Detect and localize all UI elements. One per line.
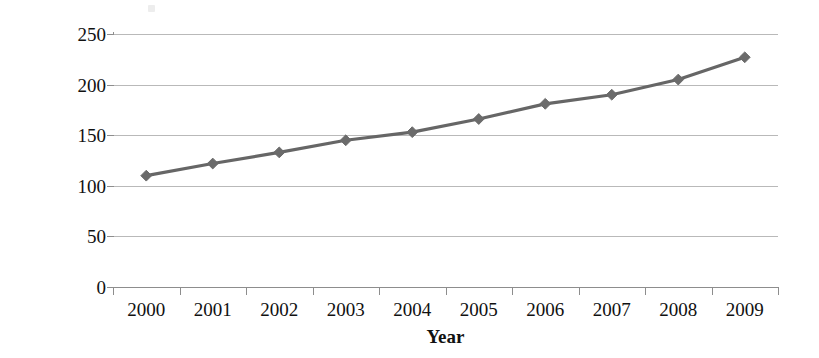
x-tick-mark [246,288,247,295]
y-tick-label: 50 [58,227,106,246]
data-point-marker [606,89,617,100]
data-point-marker [473,114,484,125]
x-tick-mark [512,288,513,295]
data-point-marker [540,98,551,109]
y-tick-label: 150 [58,126,106,145]
x-tick-mark [313,288,314,295]
x-tick-label: 2007 [577,299,647,321]
y-tick-mark [107,186,114,187]
y-tick-label: 0 [58,278,106,297]
y-tick-label: 250 [58,25,106,44]
data-point-marker [141,170,152,181]
series-line [146,57,745,175]
x-tick-mark [180,288,181,295]
x-tick-label: 2008 [643,299,713,321]
plot-area [113,34,778,287]
x-tick-label: 2002 [244,299,314,321]
y-tick-mark [107,85,114,86]
line-series [113,34,778,287]
chart-figure: Vehicles/1000 persons 050100150200250 20… [0,0,819,358]
x-tick-mark [579,288,580,295]
data-point-marker [739,52,750,63]
data-point-marker [407,127,418,138]
y-tick-mark [107,135,114,136]
x-tick-mark [446,288,447,295]
x-tick-mark [778,288,779,295]
x-tick-label: 2004 [377,299,447,321]
data-point-marker [274,147,285,158]
x-tick-label: 2006 [510,299,580,321]
y-axis-tick-labels: 050100150200250 [56,0,106,358]
x-tick-label: 2001 [178,299,248,321]
x-tick-label: 2003 [311,299,381,321]
y-tick-mark [107,236,114,237]
x-axis-title: Year [113,326,778,348]
data-point-marker [340,135,351,146]
data-point-marker [207,158,218,169]
x-tick-label: 2005 [444,299,514,321]
x-tick-mark [645,288,646,295]
x-tick-label: 2000 [111,299,181,321]
y-tick-label: 100 [58,176,106,195]
data-point-marker [673,74,684,85]
y-tick-label: 200 [58,75,106,94]
x-tick-mark [113,288,114,295]
y-tick-mark [107,34,114,35]
scan-artifact [148,5,155,12]
x-tick-mark [379,288,380,295]
x-tick-mark [712,288,713,295]
x-tick-label: 2009 [710,299,780,321]
